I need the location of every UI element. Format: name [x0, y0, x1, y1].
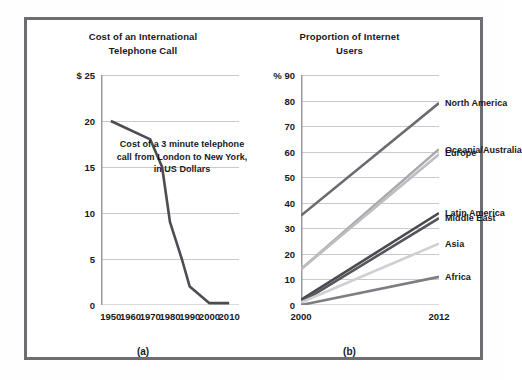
ytick-label: 10	[259, 274, 295, 285]
chart-a-annotation-line2: call from London to New York,	[117, 152, 248, 162]
series-label: Africa	[445, 272, 471, 282]
xtick-label: 1960	[120, 311, 141, 322]
chart-b-svg	[301, 75, 439, 305]
figure-frame: Cost of an International Telephone Call …	[24, 17, 483, 360]
ytick-label: 50	[259, 172, 295, 183]
series-label: Asia	[445, 239, 464, 249]
chart-a-gridlines	[101, 76, 239, 306]
chart-b-plot	[301, 75, 439, 305]
ytick-label: 40	[259, 197, 295, 208]
chart-a-title-line1: Cost of an International	[89, 31, 198, 42]
chart-b-series	[301, 103, 439, 305]
series-label: Middle East	[445, 213, 496, 223]
chart-b-title-line2: Users	[336, 45, 363, 56]
chart-b-title-line1: Proportion of Internet	[300, 31, 400, 42]
ytick-label: 30	[259, 223, 295, 234]
series-line	[301, 103, 439, 215]
series-label: North America	[445, 98, 507, 108]
chart-a-plot	[101, 75, 239, 305]
xtick-label: 2012	[428, 311, 449, 322]
panel-a-caption: (a)	[27, 346, 259, 357]
xtick-label: 2010	[219, 311, 240, 322]
ytick-label: 0	[259, 300, 295, 311]
xtick-label: 2000	[199, 311, 220, 322]
ytick-label: 60	[259, 146, 295, 157]
chart-a-title: Cost of an International Telephone Call	[27, 30, 259, 57]
xtick-label: 1990	[179, 311, 200, 322]
xtick-label: 2000	[290, 311, 311, 322]
series-line	[301, 213, 439, 300]
ytick-label: 70	[259, 121, 295, 132]
ytick-label: 80	[259, 95, 295, 106]
panel-a: Cost of an International Telephone Call …	[27, 20, 259, 363]
ytick-label: % 90	[259, 70, 295, 81]
ytick-label: 20	[259, 248, 295, 259]
ytick-label: 5	[27, 254, 95, 265]
ytick-label: 0	[27, 300, 95, 311]
panel-b: Proportion of Internet Users 01020304050…	[259, 20, 480, 363]
xtick-label: 1970	[140, 311, 161, 322]
panel-b-caption: (b)	[241, 346, 458, 357]
chart-a-annotation-line1: Cost of a 3 minute telephone	[120, 139, 244, 149]
chart-a-title-line2: Telephone Call	[109, 45, 177, 56]
chart-a-annotation-line3: in US Dollars	[154, 164, 211, 174]
ytick-label: 15	[27, 162, 95, 173]
series-label: Europe	[445, 148, 476, 158]
xtick-label: 1950	[100, 311, 121, 322]
chart-a-annotation: Cost of a 3 minute telephone call from L…	[111, 138, 253, 176]
chart-b-title: Proportion of Internet Users	[245, 30, 454, 57]
xtick-label: 1980	[159, 311, 180, 322]
ytick-label: 10	[27, 208, 95, 219]
chart-b-gridlines	[301, 76, 439, 306]
ytick-label: 20	[27, 116, 95, 127]
chart-a-svg	[101, 75, 239, 305]
ytick-label: $ 25	[27, 70, 95, 81]
